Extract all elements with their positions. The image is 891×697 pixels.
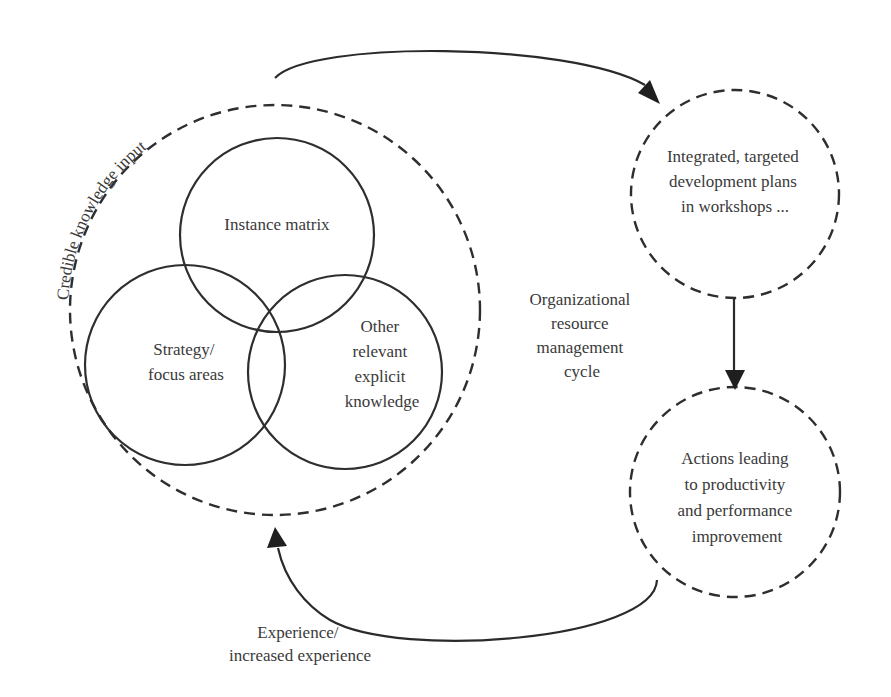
development-plans-label: Integrated, targeted development plans i… [667, 147, 803, 216]
actions-improvement-label: Actions leading to productivity and perf… [678, 449, 797, 546]
resource-cycle-diagram: Credible knowledge input Instance matrix… [0, 0, 891, 697]
arrow-to-development-plans [275, 51, 645, 85]
other-explicit-knowledge-label: Other relevant explicit knowledge [345, 317, 420, 411]
development-plans-node [631, 90, 839, 298]
cycle-center-label: Organizational resource management cycle [530, 290, 635, 381]
strategy-focus-areas-label: Strategy/ focus areas [148, 340, 224, 384]
arrowhead-icon [267, 527, 287, 548]
credible-knowledge-input-label: Credible knowledge input [53, 136, 150, 300]
instance-matrix-label: Instance matrix [224, 215, 330, 234]
